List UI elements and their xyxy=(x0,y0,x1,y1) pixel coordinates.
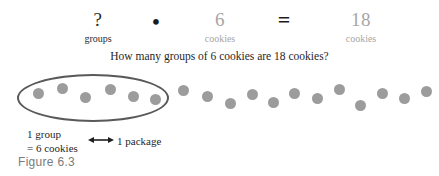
equation-term-six-value: 6 xyxy=(182,10,258,29)
equation-term-eighteen: 18 cookies xyxy=(318,10,404,44)
cookie-dot xyxy=(334,84,345,95)
equation-term-unknown: ? groups xyxy=(62,10,134,44)
cookie-dot xyxy=(377,88,388,99)
group-note-line-2: = 6 cookies xyxy=(27,142,78,156)
figure-root: ? groups • 6 cookies = 18 cookies How ma… xyxy=(0,0,439,176)
cookie-dot xyxy=(80,92,91,103)
multiplication-dot-icon: • xyxy=(145,12,167,33)
figure-caption: Figure 6.3 xyxy=(18,155,75,169)
cookie-dot xyxy=(202,91,213,102)
cookie-dot xyxy=(312,93,323,104)
cookie-dot xyxy=(247,89,258,100)
group-note: 1 group = 6 cookies xyxy=(27,128,78,156)
cookie-dot xyxy=(57,83,68,94)
question-text: How many groups of 6 cookies are 18 cook… xyxy=(0,50,439,62)
cookie-dot xyxy=(178,85,189,96)
equals-sign-icon: = xyxy=(272,9,296,31)
cookie-dot xyxy=(289,88,300,99)
group-note-line-1: 1 group xyxy=(27,128,78,142)
cookie-dot xyxy=(355,100,366,111)
equation-term-unknown-label: groups xyxy=(62,34,134,44)
cookie-dot-field xyxy=(0,70,439,125)
double-headed-arrow-icon xyxy=(88,133,114,147)
cookie-dot xyxy=(268,97,279,108)
cookie-dot xyxy=(105,84,116,95)
cookie-dot xyxy=(128,91,139,102)
cookie-dot xyxy=(421,86,432,97)
equation-term-eighteen-value: 18 xyxy=(318,10,404,29)
cookie-dot xyxy=(399,93,410,104)
cookie-dot xyxy=(225,98,236,109)
equation-term-unknown-value: ? xyxy=(62,10,134,29)
package-note: 1 package xyxy=(117,135,161,149)
equation-term-six-label: cookies xyxy=(182,34,258,44)
equation-term-eighteen-label: cookies xyxy=(318,34,404,44)
equation-term-six: 6 cookies xyxy=(182,10,258,44)
cookie-dot xyxy=(150,94,161,105)
cookie-dot xyxy=(33,88,44,99)
